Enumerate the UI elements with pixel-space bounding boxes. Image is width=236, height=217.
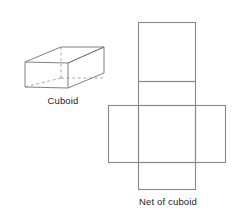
net-face-right	[196, 106, 226, 163]
cuboid-visible-edges	[25, 47, 104, 88]
hidden-edge-back-bottom-left	[25, 78, 61, 87]
geometry-figure	[0, 0, 236, 217]
cuboid-caption: Cuboid	[0, 95, 126, 107]
net-face-upper-middle	[139, 82, 196, 106]
cuboid-front-face	[25, 62, 68, 88]
net-face-center	[139, 106, 196, 163]
cuboid-right-face	[68, 47, 104, 88]
cuboid-top-face	[25, 47, 104, 63]
cuboid-drawing	[25, 47, 104, 88]
net-caption: Net of cuboid	[108, 196, 228, 208]
net-face-bottom	[139, 163, 196, 190]
net-face-left	[109, 106, 139, 163]
figure-root: Cuboid Net of cuboid	[0, 0, 236, 217]
cuboid-hidden-edges	[25, 47, 104, 87]
net-face-top	[139, 23, 196, 82]
net-drawing	[109, 23, 226, 190]
